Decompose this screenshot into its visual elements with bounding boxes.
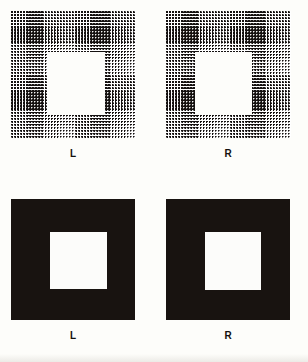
solid-square-hole-right xyxy=(205,232,261,290)
eye-label-top-left: L xyxy=(63,149,83,159)
solid-square-hole-left xyxy=(50,232,107,289)
eye-label-bottom-left: L xyxy=(63,331,83,341)
scan-edge-artifact xyxy=(0,354,308,362)
dot-matrix-hole-left xyxy=(48,52,105,115)
figure-canvas: L R L R xyxy=(0,0,308,362)
dot-matrix-hole-right xyxy=(195,52,252,115)
eye-label-top-right: R xyxy=(218,149,238,159)
eye-label-bottom-right: R xyxy=(218,331,238,341)
